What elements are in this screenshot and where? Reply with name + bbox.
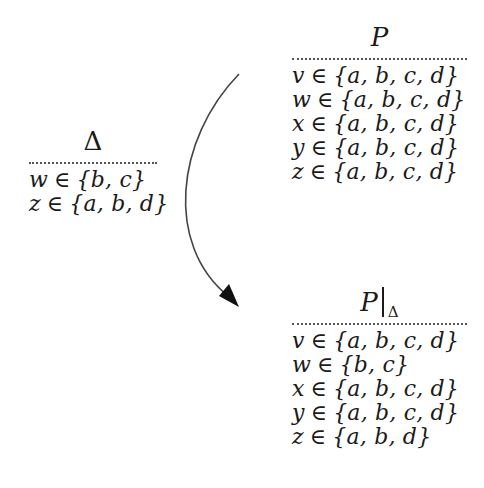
element-of-symbol: ∈ xyxy=(311,328,328,353)
domain-row: y∈{a, b, c, d} xyxy=(292,401,467,425)
arrowhead-icon xyxy=(219,284,239,307)
restriction-bar xyxy=(382,287,384,317)
domain-set: {a, b, c, d} xyxy=(333,400,459,425)
domain-set: {a, b, c, d} xyxy=(332,159,458,184)
domain-row: z∈{a, b, c, d} xyxy=(292,160,467,184)
variable: y xyxy=(292,400,305,425)
domain-row: y∈{a, b, c, d} xyxy=(292,136,467,160)
domain-set: {a, b, c, d} xyxy=(340,87,466,112)
variable: v xyxy=(292,63,305,88)
dotted-divider xyxy=(292,58,467,60)
restricted-problem-title: PΔ xyxy=(292,287,467,319)
domain-row: x∈{a, b, c, d} xyxy=(292,112,467,136)
restricted-problem-box: PΔ v∈{a, b, c, d} w∈{b, c} x∈{a, b, c, d… xyxy=(292,287,467,449)
domain-set: {a, b, c, d} xyxy=(333,63,459,88)
domain-set: {a, b, c, d} xyxy=(333,376,459,401)
domain-set: {a, b, d} xyxy=(332,424,431,449)
dotted-divider xyxy=(292,323,467,325)
variable: y xyxy=(292,135,305,160)
domain-row: x∈{a, b, c, d} xyxy=(292,377,467,401)
domain-set: {a, b, d} xyxy=(69,191,168,216)
domain-row: v∈{a, b, c, d} xyxy=(292,329,467,353)
arrow-curve xyxy=(186,74,239,296)
variable: w xyxy=(29,167,48,192)
element-of-symbol: ∈ xyxy=(310,159,327,184)
domain-set: {b, c} xyxy=(77,167,147,192)
domain-row: z∈{a, b, d} xyxy=(29,192,157,216)
dotted-divider xyxy=(29,162,157,164)
element-of-symbol: ∈ xyxy=(311,376,328,401)
variable: v xyxy=(292,328,305,353)
domain-set: {a, b, c, d} xyxy=(333,135,459,160)
domain-set: {a, b, c, d} xyxy=(333,328,459,353)
problem-p-title: P xyxy=(292,22,467,54)
domain-row: v∈{a, b, c, d} xyxy=(292,64,467,88)
variable: z xyxy=(292,159,304,184)
domain-row: z∈{a, b, d} xyxy=(292,425,467,449)
domain-set: {b, c} xyxy=(340,352,410,377)
element-of-symbol: ∈ xyxy=(54,167,71,192)
element-of-symbol: ∈ xyxy=(311,135,328,160)
element-of-symbol: ∈ xyxy=(317,87,334,112)
variable: z xyxy=(29,191,41,216)
problem-p-box: P v∈{a, b, c, d} w∈{a, b, c, d} x∈{a, b,… xyxy=(292,22,467,184)
element-of-symbol: ∈ xyxy=(47,191,64,216)
delta-title: Δ xyxy=(29,126,157,158)
element-of-symbol: ∈ xyxy=(310,424,327,449)
variable: z xyxy=(292,424,304,449)
domain-set: {a, b, c, d} xyxy=(333,111,459,136)
title-main: P xyxy=(360,287,378,317)
element-of-symbol: ∈ xyxy=(311,400,328,425)
domain-row: w∈{b, c} xyxy=(29,168,157,192)
domain-row: w∈{a, b, c, d} xyxy=(292,88,467,112)
variable: x xyxy=(292,376,305,401)
element-of-symbol: ∈ xyxy=(311,63,328,88)
element-of-symbol: ∈ xyxy=(317,352,334,377)
variable: x xyxy=(292,111,305,136)
domain-row: w∈{b, c} xyxy=(292,353,467,377)
element-of-symbol: ∈ xyxy=(311,111,328,136)
variable: w xyxy=(292,87,311,112)
variable: w xyxy=(292,352,311,377)
delta-box: Δ w∈{b, c} z∈{a, b, d} xyxy=(29,126,157,216)
title-subscript: Δ xyxy=(388,303,399,321)
